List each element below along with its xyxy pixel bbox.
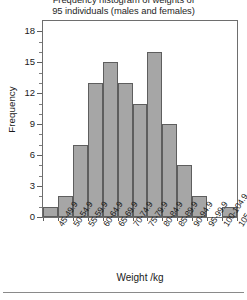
tick-mark — [39, 176, 42, 177]
y-tick-label: 15 — [24, 56, 35, 67]
y-tick-label: 6 — [30, 149, 35, 160]
histogram-bar — [103, 62, 118, 217]
tick-mark — [39, 73, 42, 74]
chart-title-line-2: 95 individuals (males and females) — [0, 6, 247, 17]
bar-slot — [73, 21, 88, 217]
histogram-bar — [147, 52, 162, 217]
bar-slot — [43, 21, 58, 217]
tick-mark — [39, 42, 42, 43]
bar-slot — [207, 21, 222, 217]
y-tick-label: 18 — [24, 25, 35, 36]
tick-mark — [37, 124, 42, 125]
histogram-bar — [118, 83, 133, 217]
tick-mark — [43, 218, 44, 221]
y-tick-label: 9 — [30, 118, 35, 129]
bar-slot — [162, 21, 177, 217]
bar-slot — [177, 21, 192, 217]
chart-title: Frequency histogram of weights of 95 ind… — [0, 0, 247, 16]
bottom-divider — [3, 292, 244, 293]
y-tick-label: 0 — [30, 211, 35, 222]
tick-mark — [39, 165, 42, 166]
histogram-bar — [88, 83, 103, 217]
tick-mark — [39, 196, 42, 197]
y-axis-title: Frequency — [6, 65, 17, 155]
bar-slot — [222, 21, 237, 217]
bar-slot — [58, 21, 73, 217]
tick-mark — [37, 62, 42, 63]
histogram-bars — [43, 21, 237, 217]
histogram-bar — [43, 207, 58, 217]
tick-mark — [37, 31, 42, 32]
bar-slot — [103, 21, 118, 217]
tick-mark — [37, 93, 42, 94]
tick-mark — [39, 83, 42, 84]
x-axis: 45-49.950-54.955-59.960-64.965-69.970-74… — [43, 218, 237, 278]
histogram-figure: Frequency histogram of weights of 95 ind… — [0, 0, 247, 300]
y-tick-label: 3 — [30, 180, 35, 191]
tick-mark — [39, 104, 42, 105]
y-axis: Frequency 0369121518 — [0, 20, 42, 218]
tick-mark — [39, 114, 42, 115]
bar-slot — [192, 21, 207, 217]
tick-mark — [37, 155, 42, 156]
tick-mark — [39, 134, 42, 135]
tick-mark — [39, 207, 42, 208]
tick-mark — [37, 217, 42, 218]
bar-slot — [118, 21, 133, 217]
tick-mark — [37, 186, 42, 187]
y-tick-label: 12 — [24, 87, 35, 98]
bar-slot — [147, 21, 162, 217]
bar-slot — [133, 21, 148, 217]
x-axis-title: Weight /kg — [42, 272, 238, 283]
tick-mark — [39, 145, 42, 146]
tick-mark — [39, 52, 42, 53]
bar-slot — [88, 21, 103, 217]
